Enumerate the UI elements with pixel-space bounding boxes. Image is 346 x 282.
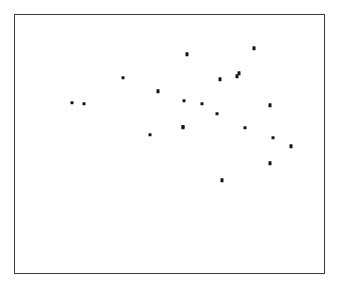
- data-point: [219, 77, 222, 81]
- data-point: [252, 46, 255, 50]
- data-point: [181, 125, 184, 129]
- data-point: [149, 133, 152, 137]
- data-point: [83, 102, 86, 106]
- data-point: [269, 104, 272, 108]
- data-point: [156, 89, 159, 93]
- data-point: [238, 72, 241, 76]
- data-point: [272, 136, 275, 140]
- data-point: [269, 162, 272, 166]
- data-point: [220, 179, 223, 183]
- data-point: [216, 112, 219, 116]
- data-point: [70, 101, 73, 105]
- data-point: [186, 53, 189, 57]
- data-point: [200, 102, 203, 106]
- scatter-plot-area: [15, 15, 324, 273]
- figure-canvas: [0, 0, 346, 282]
- data-point: [183, 99, 186, 103]
- data-point: [244, 126, 247, 130]
- plot-frame: [14, 14, 325, 274]
- data-point: [122, 76, 125, 80]
- data-point: [289, 144, 292, 148]
